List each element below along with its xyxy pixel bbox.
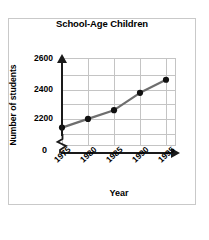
data-point: [85, 116, 91, 122]
y-axis-arrow-icon: [57, 54, 67, 63]
series-line: [62, 80, 166, 128]
y-axis-title: Number of students: [8, 58, 18, 152]
data-point: [137, 90, 143, 96]
data-point: [163, 77, 169, 83]
data-series: [62, 58, 176, 145]
y-axis-zero-label: 0: [42, 145, 47, 155]
x-axis-title: Year: [62, 188, 176, 198]
y-axis-line: [61, 62, 63, 136]
data-point: [111, 107, 117, 113]
